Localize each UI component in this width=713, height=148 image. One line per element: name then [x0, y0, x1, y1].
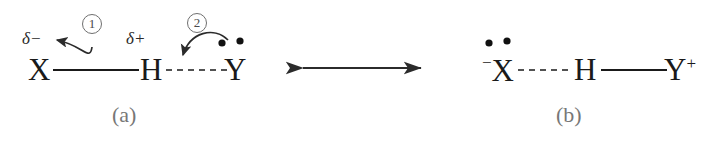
atom-y-structure-a: Y: [224, 54, 246, 85]
atom-h-structure-a: H: [140, 54, 162, 85]
step-badge-2: 2: [187, 13, 207, 33]
charge-plus-y: +: [686, 54, 696, 73]
lone-pair-dot-y-right: [236, 37, 243, 44]
partial-negative-label: δ−: [22, 30, 41, 47]
curved-arrow-1: [57, 40, 92, 53]
atom-y-structure-b: Y+: [664, 54, 696, 85]
atom-x-structure-a: X: [28, 54, 50, 85]
figure-root: δ− δ+ X H Y 1 2 (a) −X H Y+ (b): [0, 0, 713, 148]
lone-pair-dot-x-left: [485, 39, 492, 46]
caption-a: (a): [112, 104, 136, 126]
atom-y-symbol: Y: [664, 52, 686, 87]
caption-b: (b): [556, 104, 582, 126]
atom-x-structure-b: −X: [482, 54, 514, 86]
lone-pair-dot-x-right: [503, 37, 510, 44]
diagram-vector-layer: [0, 0, 713, 148]
atom-h-structure-b: H: [574, 54, 596, 85]
partial-positive-label: δ+: [126, 30, 145, 47]
atom-x-symbol: X: [492, 53, 514, 88]
step-badge-1: 1: [82, 14, 102, 34]
charge-minus-x: −: [482, 53, 492, 72]
lone-pair-dot-y-left: [218, 39, 225, 46]
